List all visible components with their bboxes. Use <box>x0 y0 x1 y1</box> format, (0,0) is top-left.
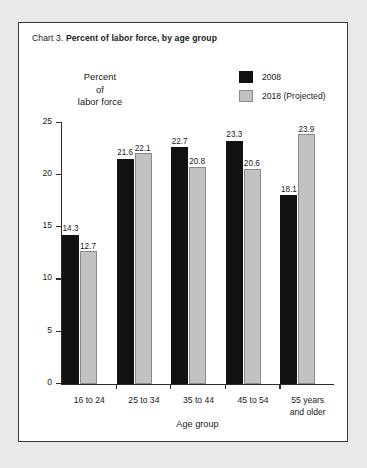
chart-legend: 2008 2018 (Projected) <box>239 67 326 105</box>
bar-2018-projected: 20.6 <box>244 169 261 384</box>
bar-value-label: 23.9 <box>298 125 314 134</box>
bar-2008: 22.7 <box>171 147 188 384</box>
x-axis-tick <box>225 384 226 389</box>
y-axis-tick-label: 15 <box>42 220 52 230</box>
bar-2008: 14.3 <box>62 235 79 384</box>
y-axis-tick-label: 10 <box>42 272 52 282</box>
bar-2018-projected: 22.1 <box>135 153 152 384</box>
category-label-line: 55 years <box>272 395 344 407</box>
bar-2008: 18.1 <box>280 195 297 384</box>
bar-2018-projected: 20.8 <box>189 167 206 384</box>
bar-value-label: 22.1 <box>135 144 151 153</box>
y-axis-tick-label: 20 <box>42 168 52 178</box>
bar-2008: 23.3 <box>226 141 243 384</box>
bar-value-label: 23.3 <box>226 130 242 139</box>
bar-value-label: 20.6 <box>244 159 260 168</box>
bar-value-label: 12.7 <box>80 242 96 251</box>
chart-title-text: Percent of labor force, by age group <box>66 33 217 43</box>
y-axis-title-line-2: of <box>57 84 143 97</box>
x-axis-tick <box>170 384 171 389</box>
bar-value-label: 20.8 <box>189 157 205 166</box>
y-axis-tick-label: 25 <box>42 116 52 126</box>
x-axis-tick <box>116 384 117 389</box>
chart-panel: Chart 3. Percent of labor force, by age … <box>18 22 348 442</box>
legend-swatch-2008 <box>239 71 253 83</box>
x-axis-tick <box>279 384 280 389</box>
bar-2008: 21.6 <box>117 159 134 385</box>
y-axis-title-line-3: labor force <box>57 96 143 109</box>
category-label-line: and older <box>272 407 344 419</box>
page-title: Chart 3. Percent of labor force, by age … <box>32 33 217 43</box>
x-axis-line <box>61 384 334 385</box>
legend-swatch-2018-projected <box>239 90 253 102</box>
bar-group: 23.320.6 <box>225 123 280 384</box>
bar-value-label: 18.1 <box>281 185 297 194</box>
bar-group: 21.622.1 <box>116 123 171 384</box>
legend-item-2018-projected: 2018 (Projected) <box>239 86 326 105</box>
legend-item-2008: 2008 <box>239 67 326 86</box>
y-axis-tick-label: 5 <box>47 325 52 335</box>
y-axis-title: Percent of labor force <box>57 71 143 109</box>
chart-number: Chart 3. <box>32 33 63 43</box>
x-axis-title: Age group <box>61 419 334 429</box>
bar-2018-projected: 23.9 <box>298 134 315 384</box>
bar-2018-projected: 12.7 <box>80 251 97 384</box>
y-axis-tick-label: 0 <box>47 377 52 387</box>
x-axis-category-label: 55 yearsand older <box>272 395 344 418</box>
legend-label-2008: 2008 <box>262 72 281 82</box>
legend-label-2018-projected: 2018 (Projected) <box>262 91 326 101</box>
bar-value-label: 14.3 <box>63 224 79 233</box>
bar-group: 18.123.9 <box>279 123 334 384</box>
plot-area: 0510152025 14.312.721.622.122.720.823.32… <box>61 123 334 384</box>
bar-group: 22.720.8 <box>170 123 225 384</box>
bar-value-label: 21.6 <box>117 148 133 157</box>
bar-group: 14.312.7 <box>61 123 116 384</box>
y-axis-title-line-1: Percent <box>57 71 143 84</box>
bar-value-label: 22.7 <box>172 137 188 146</box>
